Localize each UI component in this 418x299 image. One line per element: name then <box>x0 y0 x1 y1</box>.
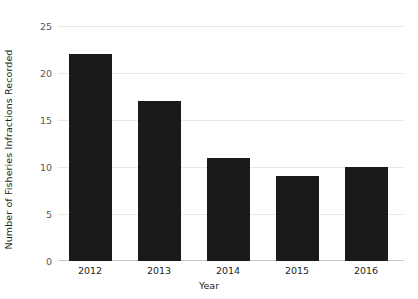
x-tick-label-2013: 2013 <box>147 265 171 276</box>
y-tick-label-25: 25 <box>12 21 52 32</box>
bar-2014 <box>207 158 250 261</box>
bar-2016 <box>345 167 388 261</box>
y-tick-label-0: 0 <box>12 256 52 267</box>
x-tick-label-2012: 2012 <box>78 265 102 276</box>
bar-chart: Number of Fisheries Infractions Recorded… <box>0 0 418 299</box>
bar-2015 <box>276 176 319 261</box>
bar-2013 <box>138 101 181 261</box>
x-tick-label-2016: 2016 <box>354 265 378 276</box>
y-tick-label-20: 20 <box>12 68 52 79</box>
x-tick-label-2014: 2014 <box>216 265 240 276</box>
bar-2012 <box>69 54 112 261</box>
bars-layer <box>58 26 404 261</box>
x-tick-label-2015: 2015 <box>285 265 309 276</box>
y-tick-label-15: 15 <box>12 115 52 126</box>
x-axis-title: Year <box>0 280 418 291</box>
y-tick-label-10: 10 <box>12 162 52 173</box>
plot-area <box>58 26 404 261</box>
y-tick-label-5: 5 <box>12 209 52 220</box>
y-axis-title: Number of Fisheries Infractions Recorded <box>0 0 16 299</box>
